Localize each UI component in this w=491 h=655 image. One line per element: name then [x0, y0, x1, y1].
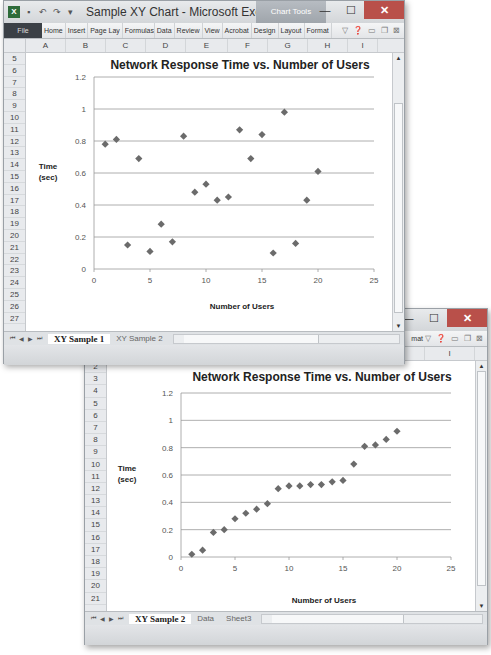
tab-data[interactable]: Data	[155, 23, 175, 38]
tab-format-partial[interactable]: mat	[409, 331, 425, 346]
row-header-16[interactable]: 16	[4, 183, 25, 195]
column-header-i[interactable]: I	[348, 39, 378, 52]
help-icon[interactable]: ❓	[436, 331, 446, 346]
row-header-19[interactable]: 19	[4, 218, 25, 230]
maximize-button[interactable]: ☐	[421, 309, 447, 327]
prev-sheet-icon[interactable]: ◀	[19, 335, 24, 342]
column-header-e[interactable]: E	[186, 39, 228, 52]
column-header-b[interactable]: B	[66, 39, 106, 52]
tab-formulas[interactable]: Formulas	[123, 23, 155, 38]
ribbon-minimize-icon[interactable]: ▽	[342, 23, 348, 39]
scroll-down-arrow[interactable]: ▼	[393, 321, 404, 331]
hscroll-thumb[interactable]	[184, 335, 319, 343]
workbook-restore-icon[interactable]: ❐	[381, 23, 388, 39]
row-header-16[interactable]: 16	[85, 532, 106, 544]
tab-review[interactable]: Review	[175, 23, 203, 38]
redo-icon[interactable]: ↷	[51, 7, 62, 17]
row-header-6[interactable]: 6	[4, 65, 25, 77]
row-header-5[interactable]: 5	[85, 398, 106, 410]
row-header-24[interactable]: 24	[4, 277, 25, 289]
row-header-13[interactable]: 13	[4, 147, 25, 159]
row-header-5[interactable]: 5	[4, 53, 25, 65]
prev-sheet-icon[interactable]: ◀	[100, 615, 105, 622]
first-sheet-icon[interactable]: ⏮	[10, 335, 15, 342]
worksheet-grid[interactable]: Network Response Time vs. Number of User…	[26, 53, 392, 331]
sheet-tab-xy-sample-1[interactable]: XY Sample 1	[48, 334, 110, 344]
scroll-down-arrow[interactable]: ▼	[476, 601, 487, 611]
row-header-26[interactable]: 26	[4, 301, 25, 313]
sheet-tab-data[interactable]: Data	[191, 614, 220, 623]
sheet-tab-xy-sample-2[interactable]: XY Sample 2	[129, 614, 191, 624]
worksheet-grid[interactable]: Network Response Time vs. Number of User…	[107, 361, 475, 611]
tab-acrobat[interactable]: Acrobat	[223, 23, 252, 38]
tab-insert[interactable]: Insert	[66, 23, 89, 38]
save-icon[interactable]: ▪	[23, 7, 34, 17]
row-header-20[interactable]: 20	[4, 230, 25, 242]
row-header-6[interactable]: 6	[85, 410, 106, 422]
tab-design[interactable]: Design	[252, 23, 279, 38]
next-sheet-icon[interactable]: ▶	[28, 335, 33, 342]
row-header-20[interactable]: 20	[85, 580, 106, 592]
row-header-19[interactable]: 19	[85, 568, 106, 580]
row-header-8[interactable]: 8	[4, 88, 25, 100]
workbook-close-icon[interactable]: ⊠	[476, 331, 483, 346]
column-header-i[interactable]: I	[425, 347, 475, 360]
row-header-22[interactable]: 22	[4, 254, 25, 266]
maximize-button[interactable]: ☐	[338, 1, 364, 19]
row-header-7[interactable]: 7	[4, 77, 25, 89]
row-header-8[interactable]: 8	[85, 434, 106, 446]
column-header-a[interactable]: A	[26, 39, 66, 52]
row-header-23[interactable]: 23	[4, 265, 25, 277]
workbook-close-icon[interactable]: ⊠	[393, 23, 400, 39]
row-header-21[interactable]: 21	[4, 242, 25, 254]
select-all[interactable]	[4, 39, 26, 52]
tab-home[interactable]: Home	[42, 23, 66, 38]
row-header-11[interactable]: 11	[4, 124, 25, 136]
scroll-up-arrow[interactable]: ▲	[393, 53, 404, 63]
horizontal-scrollbar[interactable]	[261, 614, 483, 624]
scroll-thumb[interactable]	[477, 371, 486, 586]
undo-icon[interactable]: ↶	[37, 7, 48, 17]
row-header-18[interactable]: 18	[85, 556, 106, 568]
sheet-tab-xy-sample-2[interactable]: XY Sample 2	[110, 334, 169, 343]
column-header-d[interactable]: D	[146, 39, 186, 52]
tab-page-layout[interactable]: Page Lay	[88, 23, 123, 38]
column-header-h[interactable]: H	[308, 39, 348, 52]
row-header-15[interactable]: 15	[4, 171, 25, 183]
customize-qat-icon[interactable]: ▾	[65, 7, 76, 17]
row-header-9[interactable]: 9	[85, 446, 106, 458]
horizontal-scrollbar[interactable]	[173, 334, 400, 344]
row-header-25[interactable]: 25	[4, 289, 25, 301]
excel-icon[interactable]: X	[8, 6, 20, 18]
workbook-minimize-icon[interactable]: ▭	[368, 23, 376, 39]
row-header-11[interactable]: 11	[85, 471, 106, 483]
vertical-scrollbar[interactable]: ▲ ▼	[392, 53, 404, 331]
minimize-button[interactable]: —	[312, 1, 338, 19]
last-sheet-icon[interactable]: ⏭	[37, 335, 42, 342]
tab-format[interactable]: Format	[305, 23, 332, 38]
scroll-up-arrow[interactable]: ▲	[476, 361, 487, 371]
row-header-27[interactable]: 27	[4, 313, 25, 325]
row-header-17[interactable]: 17	[4, 195, 25, 207]
sheet-tab-sheet3[interactable]: Sheet3	[220, 614, 257, 623]
ribbon-minimize-icon[interactable]: ▽	[425, 331, 431, 346]
row-header-12[interactable]: 12	[85, 483, 106, 495]
row-header-13[interactable]: 13	[85, 495, 106, 507]
row-header-9[interactable]: 9	[4, 100, 25, 112]
next-sheet-icon[interactable]: ▶	[109, 615, 114, 622]
column-header-g[interactable]: G	[268, 39, 308, 52]
row-header-3[interactable]: 3	[85, 373, 106, 385]
tab-file[interactable]: File	[4, 23, 42, 38]
scatter-chart-1[interactable]: Network Response Time vs. Number of User…	[28, 57, 388, 319]
hscroll-thumb[interactable]	[272, 615, 404, 623]
scroll-thumb[interactable]	[394, 103, 403, 313]
row-header-14[interactable]: 14	[4, 159, 25, 171]
row-header-10[interactable]: 10	[4, 112, 25, 124]
workbook-minimize-icon[interactable]: ▭	[451, 331, 459, 346]
row-header-12[interactable]: 12	[4, 136, 25, 148]
workbook-restore-icon[interactable]: ❐	[464, 331, 471, 346]
close-button[interactable]: ✕	[364, 1, 404, 19]
scatter-chart-2[interactable]: Network Response Time vs. Number of User…	[107, 361, 463, 611]
row-header-18[interactable]: 18	[4, 206, 25, 218]
column-header-c[interactable]: C	[106, 39, 146, 52]
